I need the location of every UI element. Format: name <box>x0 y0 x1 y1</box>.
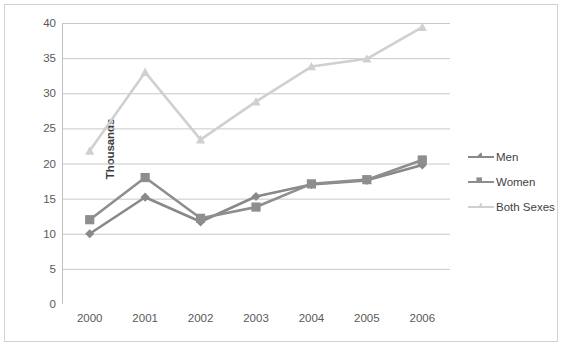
y-tick-label: 35 <box>16 52 56 64</box>
chart-svg <box>62 23 450 304</box>
y-tick-label: 25 <box>16 122 56 134</box>
legend-item-women[interactable]: Women <box>468 169 556 194</box>
x-tick-label: 2004 <box>299 312 325 324</box>
legend: MenWomenBoth Sexes <box>468 144 556 219</box>
x-axis-tick-labels: 2000200120022003200420052006 <box>62 304 450 334</box>
x-tick-label: 2001 <box>132 312 158 324</box>
x-tick-label: 2006 <box>409 312 435 324</box>
data-series-layer <box>85 23 427 238</box>
y-axis-tick-labels: 0510152025303540 <box>16 23 56 304</box>
series-women <box>85 155 427 224</box>
legend-item-men[interactable]: Men <box>468 144 556 169</box>
legend-label: Women <box>496 176 535 188</box>
legend-item-both-sexes[interactable]: Both Sexes <box>468 194 556 219</box>
legend-label: Men <box>496 151 518 163</box>
chart-frame: Thousands 0510152025303540 2000200120022… <box>4 4 558 342</box>
legend-key-square-icon <box>468 175 494 189</box>
legend-key-triangle-icon <box>468 200 494 214</box>
gridlines <box>62 24 450 305</box>
y-tick-label: 0 <box>16 298 56 310</box>
y-tick-label: 5 <box>16 263 56 275</box>
legend-label: Both Sexes <box>496 201 555 213</box>
y-tick-label: 40 <box>16 17 56 29</box>
series-both-sexes <box>85 23 427 155</box>
x-tick-label: 2000 <box>77 312 103 324</box>
x-tick-label: 2003 <box>243 312 269 324</box>
plot-area: Thousands 0510152025303540 2000200120022… <box>62 23 450 304</box>
y-tick-label: 30 <box>16 87 56 99</box>
x-tick-label: 2005 <box>354 312 380 324</box>
y-tick-label: 15 <box>16 193 56 205</box>
y-tick-label: 20 <box>16 158 56 170</box>
x-tick-label: 2002 <box>188 312 214 324</box>
legend-key-diamond-icon <box>468 150 494 164</box>
y-tick-label: 10 <box>16 228 56 240</box>
